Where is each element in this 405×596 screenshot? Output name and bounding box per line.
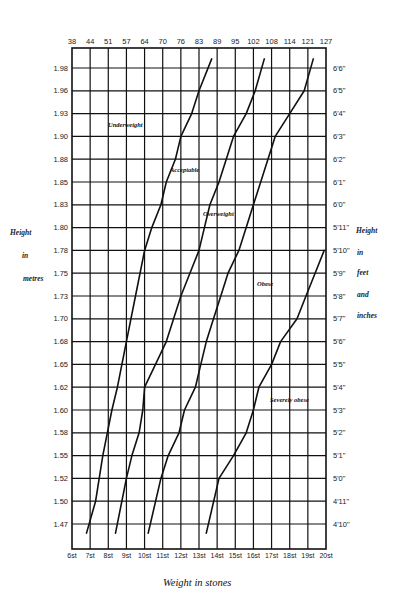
- left-tick-label: 1.85: [53, 178, 68, 187]
- right-tick-label: 5'9": [333, 269, 346, 278]
- bottom-tick-label: 13st: [192, 552, 205, 559]
- top-tick-label: 89: [213, 37, 221, 46]
- top-tick-label: 44: [86, 37, 94, 46]
- region-label-overweight: Overweight: [203, 210, 234, 217]
- right-axis-feet-inch-ticks: 6'6"6'5"6'4"6'3"6'2"6'1"6'0"5'11"5'10"5'…: [333, 64, 350, 529]
- boundary-curve: [206, 250, 324, 533]
- left-tick-label: 1.78: [53, 246, 68, 255]
- right-tick-label: 5'3": [333, 406, 346, 415]
- left-tick-label: 1.73: [53, 292, 68, 301]
- right-tick-label: 5'4": [333, 383, 346, 392]
- right-axis-title-line3: feet: [357, 268, 369, 277]
- bottom-tick-label: 19st: [301, 552, 314, 559]
- right-tick-label: 5'10": [333, 246, 350, 255]
- left-tick-label: 1.60: [53, 406, 68, 415]
- right-tick-label: 6'1": [333, 178, 346, 187]
- left-tick-label: 1.93: [53, 109, 68, 118]
- bottom-tick-label: 9st: [122, 552, 131, 559]
- left-tick-label: 1.70: [53, 314, 68, 323]
- left-axis-title-line3: metres: [23, 274, 43, 283]
- left-tick-label: 1.96: [53, 86, 68, 95]
- bottom-tick-label: 17st: [265, 552, 278, 559]
- bottom-tick-label: 14st: [211, 552, 224, 559]
- right-tick-label: 5'0": [333, 474, 346, 483]
- right-tick-label: 5'7": [333, 314, 346, 323]
- right-tick-label: 4'11": [333, 497, 349, 506]
- right-tick-label: 6'3": [333, 132, 346, 141]
- bottom-tick-label: 20st: [319, 552, 332, 559]
- right-axis-title-line4: and: [357, 290, 369, 299]
- top-tick-label: 76: [177, 37, 185, 46]
- top-tick-label: 38: [68, 37, 76, 46]
- right-tick-label: 5'11": [333, 223, 349, 232]
- right-tick-label: 6'4": [333, 109, 346, 118]
- left-tick-label: 1.55: [53, 451, 68, 460]
- right-tick-label: 5'1": [333, 451, 346, 460]
- left-axis-title-line2: in: [22, 251, 28, 260]
- region-label-obese: Obese: [257, 280, 273, 287]
- bmi-height-weight-chart: 38445157647076838995102108114121127 6st7…: [0, 0, 405, 596]
- bottom-tick-label: 18st: [283, 552, 296, 559]
- top-tick-label: 51: [104, 37, 112, 46]
- left-tick-label: 1.75: [53, 269, 68, 278]
- left-tick-label: 1.88: [53, 155, 68, 164]
- left-tick-label: 1.62: [53, 383, 68, 392]
- top-tick-label: 121: [302, 37, 315, 46]
- top-tick-label: 102: [247, 37, 260, 46]
- left-tick-label: 1.50: [53, 497, 68, 506]
- top-tick-label: 114: [284, 37, 296, 46]
- bottom-tick-label: 16st: [247, 552, 260, 559]
- left-tick-label: 1.68: [53, 337, 68, 346]
- top-tick-label: 57: [122, 37, 130, 46]
- left-tick-label: 1.65: [53, 360, 68, 369]
- right-tick-label: 5'5": [333, 360, 346, 369]
- top-axis-kg-ticks: 38445157647076838995102108114121127: [68, 37, 332, 46]
- right-tick-label: 6'5": [333, 86, 346, 95]
- top-tick-label: 83: [195, 37, 203, 46]
- horizontal-gridlines: [72, 68, 326, 524]
- region-label-underweight: Underweight: [108, 121, 143, 128]
- bottom-tick-label: 11st: [156, 552, 169, 559]
- bottom-tick-label: 7st: [85, 552, 94, 559]
- top-tick-label: 127: [320, 37, 333, 46]
- bottom-tick-label: 6st: [67, 552, 76, 559]
- bottom-tick-label: 10st: [138, 552, 151, 559]
- left-tick-label: 1.80: [53, 223, 68, 232]
- top-tick-label: 64: [140, 37, 148, 46]
- bottom-tick-label: 15st: [229, 552, 242, 559]
- right-tick-label: 5'6": [333, 337, 346, 346]
- bottom-tick-label: 12st: [174, 552, 187, 559]
- region-label-severely-obese: Severely obese: [270, 396, 309, 403]
- right-tick-label: 5'8": [333, 292, 346, 301]
- right-tick-label: 5'2": [333, 428, 346, 437]
- right-tick-label: 6'2": [333, 155, 346, 164]
- bottom-tick-label: 8st: [104, 552, 113, 559]
- left-tick-label: 1.98: [53, 64, 68, 73]
- left-axis-metre-ticks: 1.981.961.931.901.881.851.831.801.781.75…: [53, 64, 68, 529]
- left-tick-label: 1.90: [53, 132, 68, 141]
- right-tick-label: 6'0": [333, 200, 346, 209]
- top-tick-label: 70: [159, 37, 167, 46]
- right-axis-title-line5: inches: [357, 311, 377, 320]
- top-tick-label: 95: [231, 37, 239, 46]
- left-tick-label: 1.58: [53, 428, 68, 437]
- left-tick-label: 1.47: [53, 520, 68, 529]
- region-label-acceptable: Acceptable: [169, 166, 199, 173]
- top-tick-label: 108: [265, 37, 278, 46]
- right-tick-label: 6'6": [333, 64, 346, 73]
- left-tick-label: 1.52: [53, 474, 68, 483]
- x-axis-title: Weight in stones: [163, 577, 231, 588]
- right-tick-label: 4'10": [333, 520, 350, 529]
- left-axis-title-line1: Height: [9, 228, 32, 237]
- right-axis-title-line2: in: [357, 248, 363, 257]
- bottom-axis-stone-ticks: 6st7st8st9st10st11st12st13st14st15st16st…: [67, 552, 332, 559]
- right-axis-title-line1: Height: [355, 226, 378, 235]
- left-tick-label: 1.83: [53, 200, 68, 209]
